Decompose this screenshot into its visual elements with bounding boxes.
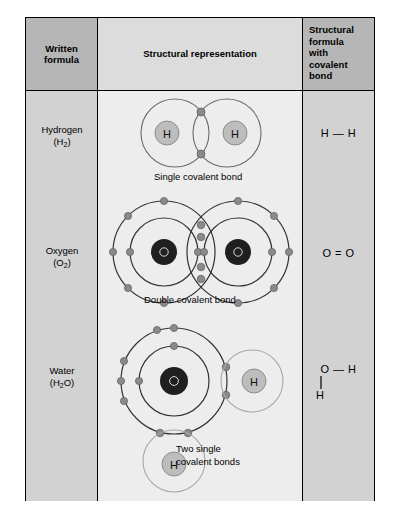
water-oxygen-outer-electron-top-1	[153, 326, 160, 333]
table-body: Hydrogen (H2) Oxygen (O2) Water (H2O) H …	[26, 91, 374, 501]
structural-formula-oxygen: O = O	[303, 247, 374, 259]
oxygen-shared-electron-3	[197, 263, 205, 271]
covalent-bond-table: Written formula Structural representatio…	[25, 17, 375, 501]
oxygen-shared-electron-2	[197, 233, 205, 241]
header-formula-line5: bond	[309, 70, 354, 82]
row-label-oxygen: Oxygen (O2)	[26, 245, 98, 272]
hydrogen-shared-electron-bottom	[197, 150, 205, 158]
water-oxygen-outer-electron-left-1	[117, 377, 124, 384]
oxygen-left-outer-electron-left	[109, 248, 116, 255]
row-label-hydrogen: Hydrogen (H2)	[26, 124, 98, 151]
header-written-line2: formula	[44, 54, 79, 66]
column-structural-formula	[303, 91, 374, 501]
caption-hydrogen: Single covalent bond	[154, 171, 242, 183]
oxygen-right-inner-electron-1	[200, 248, 207, 255]
oxygen-left-inner-electron-1	[126, 248, 133, 255]
header-formula-line3: with	[309, 47, 354, 59]
hydrogen-subscript: 2	[63, 141, 67, 148]
oxygen-right-outer-electron-top	[234, 197, 241, 204]
water-oxygen-outer-electron-top-2	[170, 324, 177, 331]
hydrogen-left-symbol: H	[163, 128, 171, 140]
header-cell-structural-formula: Structural formula with covalent bond	[303, 18, 374, 90]
header-struct-label: Structural representation	[143, 48, 257, 60]
oxygen-left-outer-electron-lower-left	[124, 284, 131, 291]
oxygen-left-outer-electron-top	[160, 197, 167, 204]
water-symbol-h: H	[53, 377, 60, 388]
header-formula-line2: formula	[309, 36, 354, 48]
hydrogen-shared-electron-top	[197, 108, 205, 116]
header-written-line1: Written	[44, 43, 79, 55]
structural-formula-water: O — H H	[303, 363, 374, 402]
row-label-water-formula: (H2O)	[26, 377, 98, 392]
header-formula-line1: Structural	[309, 24, 354, 36]
caption-water-line2: covalent bonds	[176, 456, 240, 469]
caption-water-line1: Two single	[176, 443, 240, 456]
structural-formula-hydrogen: H — H	[303, 127, 374, 139]
oxygen-right-outer-electron-lower-right	[270, 284, 277, 291]
water-oxygen-inner-electron-2	[170, 342, 177, 349]
water-hydrogen-right-symbol: H	[250, 376, 258, 388]
water-oxygen-outer-electron-left-3	[120, 397, 127, 404]
oxygen-symbol: O	[56, 257, 63, 268]
water-oxygen-nucleus	[160, 367, 188, 395]
column-written-formula	[26, 91, 98, 501]
water-symbol-o: O	[64, 377, 71, 388]
header-cell-structural-representation: Structural representation	[98, 18, 303, 90]
diagram-hydrogen-molecule: H H	[102, 93, 300, 173]
oxygen-shared-electron-4	[197, 275, 205, 283]
caption-water: Two single covalent bonds	[176, 443, 240, 468]
oxygen-right-outer-electron-right	[285, 248, 292, 255]
header-cell-written-formula: Written formula	[26, 18, 98, 90]
water-bond-vertical-wrap	[303, 376, 374, 389]
row-label-water: Water (H2O)	[26, 365, 98, 392]
water-oxygen-inner-electron-1	[135, 377, 142, 384]
header-formula-line4: covalent	[309, 59, 354, 71]
oxygen-right-outer-electron-upper-right	[270, 212, 277, 219]
diagram-page: Written formula Structural representatio…	[0, 0, 397, 518]
table-header-row: Written formula Structural representatio…	[26, 18, 374, 91]
oxygen-subscript: 2	[64, 262, 68, 269]
row-label-water-name: Water	[26, 365, 98, 377]
oxygen-left-outer-electron-upper-left	[124, 212, 131, 219]
oxygen-right-inner-electron-2	[268, 248, 275, 255]
row-label-oxygen-formula: (O2)	[26, 257, 98, 272]
row-label-hydrogen-formula: (H2)	[26, 136, 98, 151]
oxygen-left-nucleus	[151, 239, 177, 265]
structural-formula-water-line2: H	[303, 389, 374, 402]
row-label-oxygen-name: Oxygen	[26, 245, 98, 257]
row-label-hydrogen-name: Hydrogen	[26, 124, 98, 136]
water-oxygen-outer-electron-left-2	[120, 357, 127, 364]
structural-formula-water-line1: O — H	[303, 363, 374, 376]
hydrogen-right-symbol: H	[231, 128, 239, 140]
caption-oxygen: Double covalent bond	[144, 294, 236, 306]
oxygen-shared-electron-1	[197, 221, 205, 229]
diagram-water-molecule: H H	[102, 319, 300, 499]
diagram-oxygen-molecule	[102, 197, 300, 307]
oxygen-right-nucleus	[225, 239, 251, 265]
water-vertical-bond-icon	[303, 376, 374, 389]
